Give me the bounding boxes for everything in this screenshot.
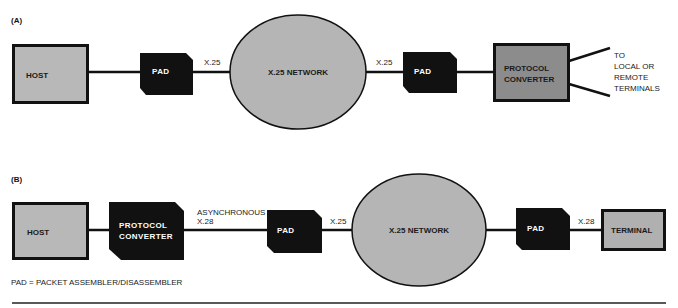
svg-text:REMOTE: REMOTE (614, 73, 648, 82)
network-cloud-b: X.25 NETWORK (352, 174, 486, 286)
pad-label: PAD (277, 226, 295, 235)
network-cloud-a: X.25 NETWORK (230, 15, 366, 129)
link-label-x25: X.25 (204, 58, 221, 67)
link-label-async-line1: ASYNCHRONOUS (197, 208, 265, 217)
svg-text:TERMINALS: TERMINALS (614, 84, 660, 93)
pad-label: PAD (152, 67, 170, 76)
host-node-b: HOST (14, 204, 88, 259)
pad-node-a-right: PAD (403, 52, 457, 93)
panel-label-b: (B) (11, 175, 22, 184)
protocol-converter-b: PROTOCOL CONVERTER (109, 202, 184, 260)
diagram-b: (B) HOST PROTOCOL CONVERTER ASYNCHRONOUS… (11, 174, 665, 286)
host-label: HOST (26, 71, 48, 80)
pad-node-b-right: PAD (516, 208, 570, 250)
terminal-node: TERMINAL (603, 211, 665, 250)
legend-text: PAD = PACKET ASSEMBLER/DISASSEMBLER (11, 278, 183, 287)
pad-node-b-left: PAD (267, 210, 322, 253)
panel-label-a: (A) (11, 16, 22, 25)
pad-label: PAD (414, 67, 432, 76)
fan-line-upper (569, 48, 610, 61)
host-label: HOST (27, 228, 49, 237)
svg-text:TO: TO (614, 51, 625, 60)
converter-label-line2: CONVERTER (504, 75, 554, 84)
svg-text:LOCAL OR: LOCAL OR (614, 62, 654, 71)
diagram-a: (A) HOST PAD X.25 X.25 NETWORK X.25 PAD (11, 15, 660, 129)
fan-line-lower (569, 84, 610, 96)
converter-label-line2: CONVERTER (119, 232, 173, 241)
link-label-x28: X.28 (578, 217, 595, 226)
terminals-note: TO LOCAL OR REMOTE TERMINALS (614, 51, 660, 93)
host-node-a: HOST (14, 46, 88, 103)
network-label: X.25 NETWORK (268, 68, 328, 77)
x25-network-diagram: (A) HOST PAD X.25 X.25 NETWORK X.25 PAD (0, 0, 678, 308)
link-label-async-line2: X.28 (197, 217, 214, 226)
network-label: X.25 NETWORK (389, 226, 449, 235)
pad-node-a-left: PAD (140, 53, 193, 95)
terminal-label: TERMINAL (611, 226, 652, 235)
link-label-x25: X.25 (330, 217, 347, 226)
converter-label-line1: PROTOCOL (119, 221, 167, 230)
link-label-x25: X.25 (376, 58, 393, 67)
protocol-converter-a: PROTOCOL CONVERTER (495, 45, 569, 101)
pad-label: PAD (527, 224, 545, 233)
converter-label-line1: PROTOCOL (504, 64, 549, 73)
